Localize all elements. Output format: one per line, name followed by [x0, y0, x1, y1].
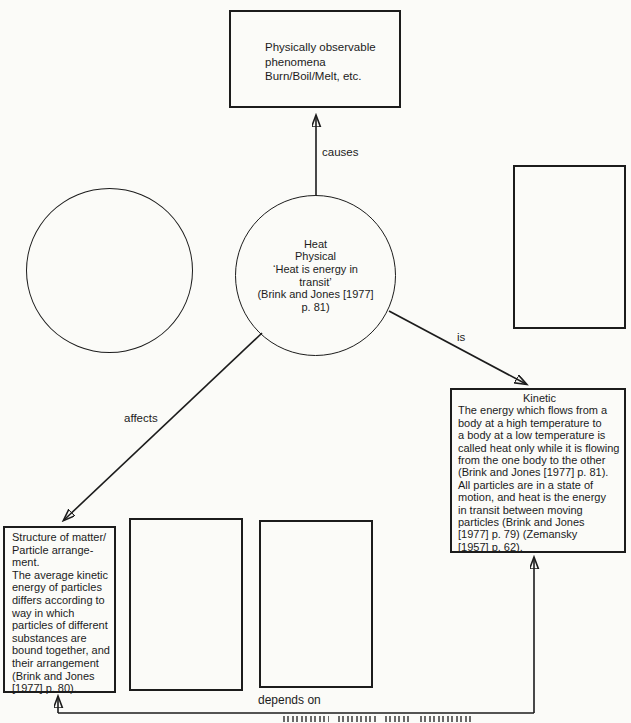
cropped-caption-fragment	[283, 716, 472, 723]
heat-circle: Heat Physical ‘Heat is energy in transit…	[235, 195, 396, 356]
empty-circle-left	[26, 188, 193, 353]
cropped-caption-mark	[283, 716, 329, 722]
phenomena-box: Physically observable phenomena Burn/Boi…	[229, 10, 401, 108]
concept-map-canvas: Physically observable phenomena Burn/Boi…	[0, 0, 631, 723]
edge-label-is: is	[457, 331, 465, 343]
cropped-caption-mark	[420, 716, 472, 722]
edge-label-affects: affects	[124, 412, 158, 424]
heat-circle-text: Heat Physical ‘Heat is energy in transit…	[257, 238, 373, 314]
structure-box-text: Structure of matter/ Particle arrange- m…	[12, 531, 112, 695]
empty-box-bottom-2	[259, 520, 373, 688]
phenomena-box-text: Physically observable phenomena Burn/Boi…	[265, 40, 393, 84]
is-arrow	[389, 311, 526, 384]
kinetic-box: Kinetic The energy which flows from a bo…	[450, 388, 626, 553]
edge-label-causes: causes	[322, 146, 358, 158]
structure-box: Structure of matter/ Particle arrange- m…	[3, 526, 116, 693]
kinetic-box-text: The energy which flows from a body at a …	[458, 404, 621, 553]
kinetic-box-title: Kinetic	[458, 392, 621, 404]
empty-box-bottom-1	[129, 518, 243, 691]
cropped-caption-mark	[385, 716, 411, 722]
affects-arrow	[64, 333, 262, 520]
cropped-caption-mark	[338, 716, 376, 722]
empty-box-right	[513, 165, 626, 329]
edge-label-depends-on: depends on	[258, 693, 321, 707]
